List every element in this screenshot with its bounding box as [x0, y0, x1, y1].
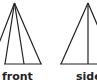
front-edge-line	[15, 3, 25, 64]
front-edge-line	[5, 3, 15, 64]
side-view-label: side	[76, 71, 97, 82]
front-view-triangle	[0, 3, 42, 64]
side-edge-line	[61, 3, 88, 64]
side-view-triangle	[60, 3, 97, 64]
side-edge-line	[88, 3, 97, 64]
front-view-label: front	[2, 71, 33, 82]
front-edge-line	[15, 3, 42, 64]
front-edge-line	[0, 3, 15, 64]
